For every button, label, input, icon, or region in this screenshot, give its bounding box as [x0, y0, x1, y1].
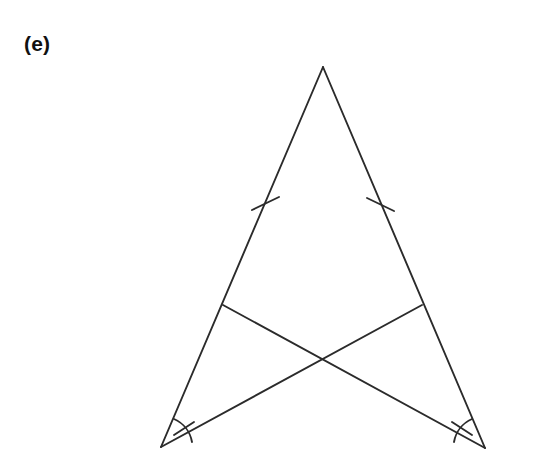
angle-tick-base-right-icon: [452, 422, 472, 435]
left-leg-line: [161, 67, 323, 447]
figure-canvas: (e): [0, 0, 560, 471]
right-leg-line: [323, 67, 485, 448]
angle-tick-base-left-icon: [174, 422, 194, 435]
congruent-side-ticks: [252, 197, 394, 211]
cevian-from-base-left-line: [161, 305, 422, 447]
congruent-angle-marks: [174, 419, 472, 442]
tick-left-leg-icon: [252, 197, 279, 210]
triangle-outline: [161, 67, 485, 448]
cevian-lines: [161, 305, 485, 448]
geometry-diagram: [0, 0, 560, 471]
cevian-from-base-right-line: [223, 305, 485, 448]
